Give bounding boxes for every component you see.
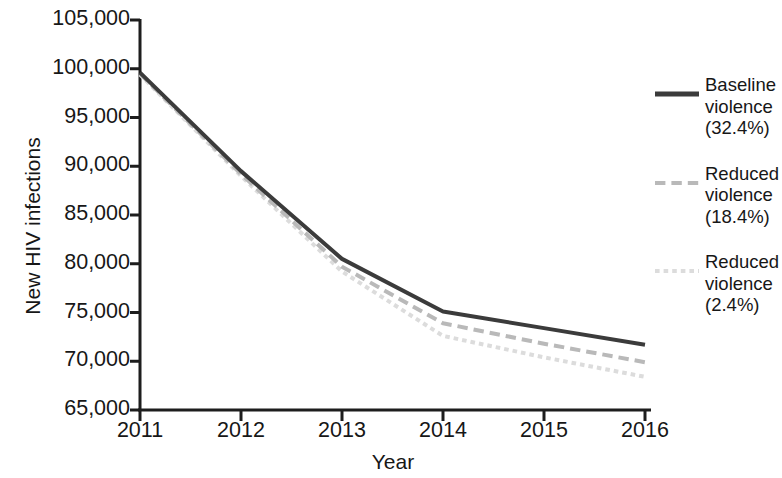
series-line-2 [140,74,645,363]
legend-label: Reduced violence (18.4%) [705,163,782,228]
legend-swatch-dashed-icon [655,172,699,178]
legend-label: Reduced violence (2.4%) [705,251,782,316]
legend-entry[interactable]: Reduced violence (18.4%) [655,163,782,228]
legend-swatch-dotted-icon [655,260,699,266]
legend-entry[interactable]: Baseline violence (32.4%) [655,74,782,139]
line-chart-figure: New HIV infections 65,00070,00075,00080,… [0,0,782,478]
chart-legend: Baseline violence (32.4%)Reduced violenc… [655,74,782,340]
legend-entry[interactable]: Reduced violence (2.4%) [655,251,782,316]
series-line-1 [140,73,645,345]
legend-label: Baseline violence (32.4%) [705,74,782,139]
legend-swatch-solid-icon [655,83,699,89]
